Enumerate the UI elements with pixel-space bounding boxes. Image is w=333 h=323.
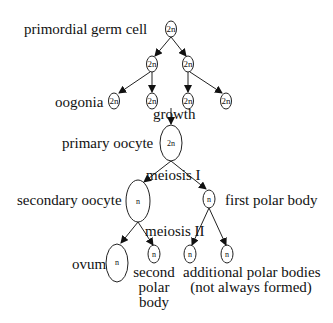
ploidy-label: 2n <box>216 96 236 106</box>
label-growth: growth <box>153 107 196 122</box>
ploidy-label: n <box>107 258 127 267</box>
label-primary-oocyte: primary oocyte <box>62 136 153 151</box>
arrow <box>209 208 226 245</box>
ploidy-label: 2n <box>142 59 162 69</box>
ploidy-label: n <box>217 250 237 259</box>
arrow <box>155 37 171 56</box>
label-additional-polar-bodies: additional polar bodies <box>183 265 319 280</box>
label-ovum: ovum <box>72 257 106 272</box>
ploidy-label: 2n <box>178 59 198 69</box>
label-oogonia: oogonia <box>55 95 103 110</box>
ploidy-label: 2n <box>161 139 181 148</box>
ploidy-label: n <box>144 250 164 259</box>
arrow <box>119 72 150 93</box>
arrow <box>121 222 138 243</box>
label-first-polar-body: first polar body <box>225 193 317 208</box>
ploidy-label: 2n <box>104 96 124 106</box>
label-primordial-germ-cell: primordial germ cell <box>24 22 147 37</box>
label-not-always-formed: (not always formed) <box>183 280 319 295</box>
label-meiosis-i: meiosis I <box>146 168 201 183</box>
ploidy-label: 2n <box>161 24 181 34</box>
arrow <box>190 72 222 93</box>
label-second-polar-body-2: polar <box>133 280 175 295</box>
oogenesis-diagram: 2n 2n 2n 2n 2n 2n 2n 2n n n n n n n prim… <box>0 0 333 323</box>
ploidy-label: n <box>180 250 200 259</box>
label-second-polar-body-3: body <box>133 295 175 310</box>
ploidy-label: n <box>199 195 219 204</box>
label-meiosis-ii: meiosis II <box>145 224 205 239</box>
label-secondary-oocyte: secondary oocyte <box>17 193 122 208</box>
ploidy-label: 2n <box>178 96 198 106</box>
ploidy-label: 2n <box>142 96 162 106</box>
ploidy-label: n <box>128 197 148 206</box>
arrow <box>171 37 186 56</box>
label-second-polar-body-1: second <box>133 265 175 280</box>
